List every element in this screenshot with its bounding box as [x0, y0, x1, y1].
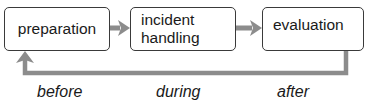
arrow-feedback-loop — [16, 51, 346, 73]
node-label: incident handling — [141, 11, 200, 47]
node-label: preparation — [18, 20, 96, 38]
phase-label-after: after — [277, 83, 309, 101]
node-label: evaluation — [273, 16, 344, 34]
node-preparation: preparation — [4, 7, 110, 51]
arrow-incident-to-eval — [236, 20, 262, 36]
incident-lifecycle-diagram: preparation incident handling evaluation… — [0, 0, 370, 105]
node-evaluation: evaluation — [262, 7, 364, 51]
phase-label-before: before — [37, 83, 82, 101]
node-incident-handling: incident handling — [130, 7, 236, 51]
arrow-prep-to-incident — [110, 20, 130, 36]
phase-label-during: during — [156, 83, 200, 101]
